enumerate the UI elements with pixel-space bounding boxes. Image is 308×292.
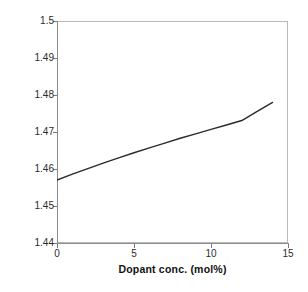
y-tick-label: 1.49 <box>35 53 54 63</box>
x-tick-label: 0 <box>42 249 72 259</box>
data-line-layer <box>57 21 288 243</box>
y-tick-label: 1.46 <box>35 164 54 174</box>
x-tick-label: 15 <box>273 249 303 259</box>
chart-figure: 1.441.451.461.471.481.491.5 051015 Dopan… <box>0 0 308 292</box>
x-axis-title: Dopant conc. (mol%) <box>57 263 288 275</box>
y-tick-label: 1.48 <box>35 90 54 100</box>
y-tick-label: 1.44 <box>35 238 54 248</box>
x-tick-label: 10 <box>196 249 226 259</box>
x-axis-line <box>57 243 289 244</box>
y-tick-label: 1.5 <box>40 16 54 26</box>
y-tick-label: 1.47 <box>35 127 54 137</box>
x-tick-label: 5 <box>119 249 149 259</box>
y-tick-label: 1.45 <box>35 201 54 211</box>
data-series-line <box>57 102 273 180</box>
